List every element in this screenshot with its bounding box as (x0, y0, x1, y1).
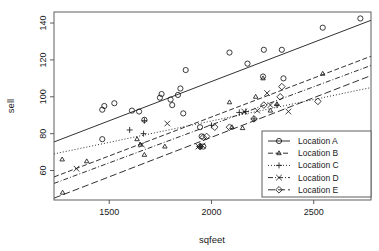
x-tick-label: 1500 (99, 207, 119, 217)
data-point (60, 190, 65, 194)
y-axis-title: sell (5, 99, 16, 113)
data-point (60, 157, 65, 161)
y-axis: 6080100120140 (38, 16, 54, 176)
regression-line-location-a (54, 20, 371, 142)
data-point (197, 125, 202, 130)
data-point (84, 159, 89, 163)
data-point (181, 111, 186, 116)
y-tick-label: 140 (38, 16, 48, 31)
data-point (274, 102, 280, 108)
x-tick-label: 2000 (201, 207, 221, 217)
legend[interactable]: Location ALocation BLocation CLocation D… (262, 131, 371, 197)
data-point (170, 102, 175, 107)
legend-label: Location B (298, 148, 338, 158)
chart-canvas: 150020002500 6080100120140 sqfeet sell L… (0, 0, 379, 251)
data-point (168, 97, 173, 102)
series-location-d (74, 90, 291, 171)
data-point (183, 67, 188, 72)
data-point (141, 131, 147, 137)
legend-label: Location C (298, 160, 339, 170)
data-point (279, 83, 286, 90)
data-point (281, 76, 286, 81)
legend-label: Location D (298, 173, 339, 183)
y-tick-label: 60 (38, 166, 48, 176)
data-point (100, 137, 105, 142)
scatter-plot-figure: 150020002500 6080100120140 sqfeet sell L… (0, 0, 379, 251)
y-tick-label: 120 (38, 52, 48, 67)
data-point (236, 109, 242, 115)
series-location-c (127, 102, 280, 149)
data-point (261, 47, 266, 52)
data-point (135, 137, 140, 141)
data-point (245, 61, 250, 66)
data-point (178, 86, 183, 91)
data-point (74, 166, 80, 172)
y-tick-label: 80 (38, 129, 48, 139)
data-point (211, 124, 218, 131)
data-point (142, 152, 147, 156)
legend-label: Location A (298, 136, 338, 146)
x-axis: 150020002500 (99, 200, 324, 217)
x-tick-label: 2500 (304, 207, 324, 217)
data-point (112, 101, 117, 106)
data-point (127, 127, 133, 133)
x-axis-title: sqfeet (199, 234, 225, 245)
data-point (279, 47, 284, 52)
data-point (286, 109, 292, 115)
data-point (358, 16, 363, 21)
data-point (320, 25, 325, 30)
data-point (163, 144, 168, 148)
data-point (165, 121, 171, 127)
data-point (254, 108, 260, 114)
data-point (227, 100, 232, 104)
data-point (264, 90, 270, 96)
data-point (253, 94, 258, 98)
legend-label: Location E (298, 185, 338, 195)
data-point (251, 116, 257, 122)
y-tick-label: 100 (38, 89, 48, 104)
data-point (227, 50, 232, 55)
data-point (139, 142, 145, 148)
